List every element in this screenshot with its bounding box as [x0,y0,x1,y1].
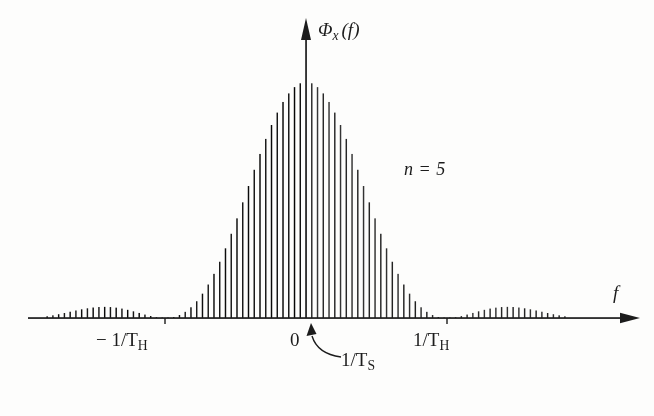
x-axis-label: f [613,283,618,302]
line-spacing-annotation-prefix: 1/T [341,349,367,370]
x-tick-label-positive-one-over-TH: 1/TH [413,330,449,353]
y-axis-label-argument: (f) [342,19,360,40]
parameter-annotation-n: n = 5 [404,160,446,178]
x-tick-label-negative-one-over-TH: − 1/TH [96,330,148,353]
x-tick-label-zero: 0 [290,330,300,349]
line-spacing-annotation: 1/TS [341,350,375,373]
parameter-annotation-n-text: n = 5 [404,159,446,179]
line-spacing-annotation-subscript: S [367,358,375,373]
spectrum-figure: Φx(f) f n = 5 − 1/TH 0 1/TH 1/TS [0,0,654,416]
tick-neg-subscript: H [138,338,148,353]
tick-neg-prefix: − 1/T [96,329,138,350]
y-axis-label-subscript: x [332,28,338,43]
tick-pos-subscript: H [439,338,449,353]
y-axis-label-symbol: Φ [318,19,332,40]
y-axis-label: Φx(f) [318,20,359,43]
tick-pos-prefix: 1/T [413,329,439,350]
spectrum-plot-canvas [0,0,654,416]
